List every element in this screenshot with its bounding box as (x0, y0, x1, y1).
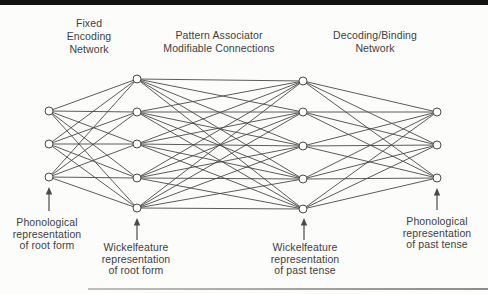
arrow-up-icon (46, 187, 52, 195)
unit-node (133, 174, 141, 182)
connection-line (303, 81, 437, 145)
unit-node (133, 140, 141, 148)
connection-line (303, 178, 437, 179)
connection-line (49, 79, 137, 177)
connection-line (49, 112, 137, 177)
connection-line (303, 145, 437, 209)
connection-line (137, 81, 303, 144)
arrow-up-icon (134, 218, 140, 226)
connection-line (137, 146, 303, 178)
unit-node (299, 142, 307, 150)
connection-line (137, 146, 303, 208)
connection-line (303, 81, 437, 112)
title-label-decoding-binding-network: Decoding/Binding Network (333, 29, 417, 55)
connection-line (49, 177, 137, 208)
unit-node (433, 141, 441, 149)
bottom-rule (88, 288, 488, 290)
unit-node (299, 205, 307, 213)
connection-line (137, 208, 303, 209)
connection-line (49, 111, 137, 208)
title-label-fixed-encoding-network: Fixed Encoding Network (67, 17, 112, 56)
io-label-phonological-past-tense: Phonological representation of past tens… (403, 216, 472, 251)
connection-line (303, 145, 437, 179)
connection-line (137, 144, 303, 179)
connection-line (49, 144, 137, 208)
connection-line (303, 178, 437, 209)
unit-node (133, 204, 141, 212)
title-label-pattern-associator: Pattern Associator Modifiable Connection… (163, 29, 274, 55)
connection-line (303, 112, 437, 209)
connection-line (137, 144, 303, 209)
arrow-up-icon (301, 218, 307, 226)
unit-node (299, 77, 307, 85)
io-label-phonological-root-form: Phonological representation of root form (13, 217, 82, 252)
unit-node (433, 174, 441, 182)
connection-line (49, 79, 137, 111)
io-label-wickelfeature-root-form: Wickelfeature representation of root for… (102, 242, 171, 277)
unit-node (133, 108, 141, 116)
unit-node (45, 140, 53, 148)
io-label-wickelfeature-past-tense: Wickelfeature representation of past ten… (271, 242, 340, 277)
unit-node (299, 175, 307, 183)
unit-node (299, 108, 307, 116)
unit-node (45, 107, 53, 115)
connection-line (137, 178, 303, 179)
unit-node (133, 75, 141, 83)
connection-line (137, 79, 303, 81)
figure-canvas: Fixed Encoding Network Pattern Associato… (0, 0, 488, 294)
unit-node (433, 108, 441, 116)
arrow-up-icon (434, 188, 440, 196)
connection-line (49, 177, 137, 178)
connection-line (303, 81, 437, 178)
unit-node (45, 173, 53, 181)
